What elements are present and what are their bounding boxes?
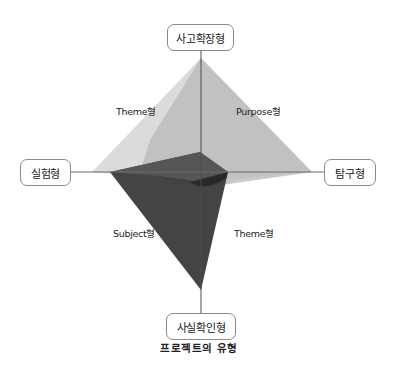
diagram-caption: 프로젝트의 유형 xyxy=(0,340,398,355)
region-label-upper-right: Purpose형 xyxy=(236,104,281,118)
axis-label-left-text: 실험형 xyxy=(31,165,60,181)
axis-label-right: 탐구형 xyxy=(324,159,376,186)
axis-label-bottom-text: 사실확인형 xyxy=(177,319,226,335)
axis-label-right-text: 탐구형 xyxy=(335,165,364,181)
axis-label-top: 사고확장형 xyxy=(167,24,234,51)
region-label-lower-right: Theme형 xyxy=(234,226,274,240)
region-label-lower-left: Subject형 xyxy=(113,226,155,240)
region-label-upper-left: Theme형 xyxy=(116,104,156,118)
axis-label-top-text: 사고확장형 xyxy=(176,30,225,46)
axis-label-left: 실험형 xyxy=(20,159,71,186)
project-types-diagram: 사고확장형 실험형 탐구형 사실확인형 Theme형 Purpose형 Subj… xyxy=(0,0,398,369)
axis-label-bottom: 사실확인형 xyxy=(166,313,236,340)
